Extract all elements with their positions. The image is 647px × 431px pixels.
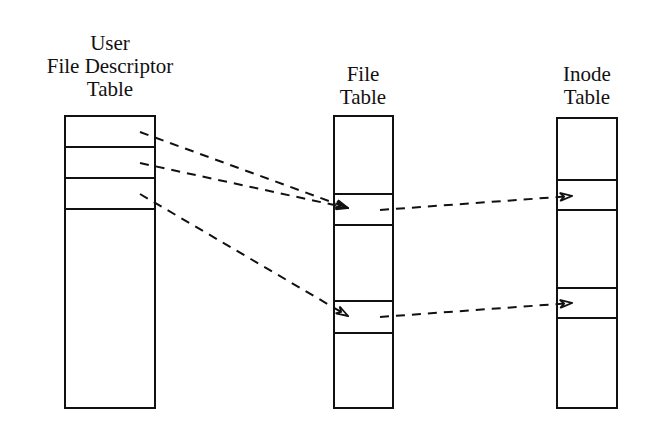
file-entry1-to-inode1-arrow: [380, 196, 572, 210]
inode-table: [557, 118, 617, 408]
fd1-to-file-entry1-arrow: [140, 163, 348, 208]
fd0-to-file-entry1-arrow: [140, 132, 348, 208]
user-fd-table: [65, 116, 155, 408]
fd2-to-file-entry2-arrow: [140, 194, 348, 316]
file-entry2-to-inode2-arrow: [380, 303, 572, 317]
file-table: [334, 116, 393, 408]
diagram-canvas: [0, 0, 647, 431]
